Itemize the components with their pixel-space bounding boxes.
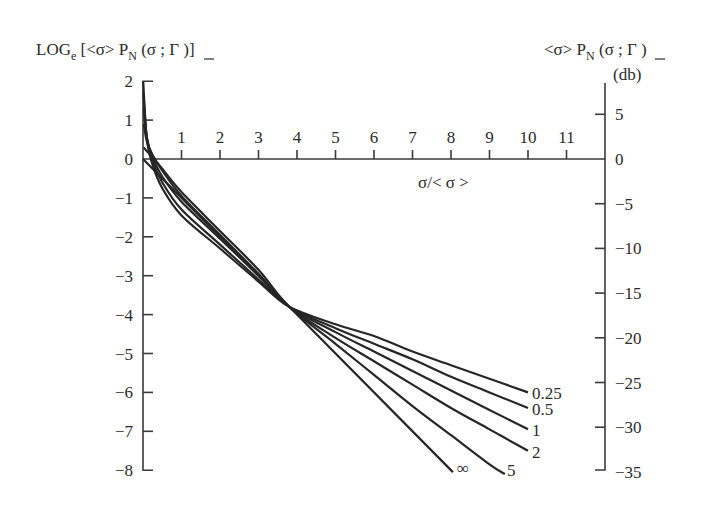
right-y-axis: [595, 83, 605, 470]
x-tick-label: 11: [558, 128, 574, 147]
axes: 210−1−2−3−4−5−6−7−8123456789101150−5−10−…: [115, 72, 642, 482]
y-tick-label: 2: [125, 72, 134, 91]
db-tick-label: −30: [615, 418, 642, 437]
db-tick-label: −20: [615, 329, 642, 348]
x-tick-label: 2: [216, 128, 225, 147]
db-tick-label: −15: [615, 284, 642, 303]
curve-5: [144, 147, 505, 474]
db-tick-label: −10: [615, 239, 642, 258]
y-tick-label: −4: [115, 306, 134, 325]
curve-∞: [143, 159, 453, 472]
x-tick-label: 9: [485, 128, 494, 147]
x-tick-label: 1: [177, 128, 186, 147]
db-tick-label: −5: [615, 195, 633, 214]
left-axis-title: LOGe [<σ> PN (σ ; Γ )]: [36, 40, 195, 63]
chart: LOGe [<σ> PN (σ ; Γ )] <σ> PN (σ ; Γ ) (…: [0, 0, 702, 512]
x-tick-label: 7: [408, 128, 417, 147]
y-tick-label: 1: [125, 111, 134, 130]
y-tick-label: −6: [115, 383, 133, 402]
x-tick-label: 8: [447, 128, 456, 147]
y-tick-label: −3: [115, 267, 133, 286]
y-tick-label: −1: [115, 189, 133, 208]
right-axis-title: <σ> PN (σ ; Γ ): [544, 40, 647, 63]
db-tick-label: −35: [615, 463, 642, 482]
x-tick-label: 10: [520, 128, 537, 147]
y-tick-label: 0: [125, 150, 134, 169]
y-tick-label: −7: [115, 422, 134, 441]
curve-label: 5: [507, 461, 516, 480]
x-tick-label: 5: [331, 128, 340, 147]
right-axis-unit: (db): [613, 65, 641, 84]
x-axis-title: σ/< σ >: [418, 173, 469, 192]
y-tick-label: −8: [115, 461, 133, 480]
y-tick-label: −5: [115, 345, 133, 364]
curve-label: 2: [532, 443, 541, 462]
curve-labels: 0.250.5125∞: [457, 384, 562, 480]
db-tick-label: −25: [615, 374, 642, 393]
curve-label: 0.5: [532, 400, 553, 419]
curve-2: [144, 124, 528, 451]
x-tick-label: 6: [370, 128, 379, 147]
db-tick-label: 5: [615, 105, 624, 124]
y-tick-label: −2: [115, 228, 133, 247]
curve-label: 1: [532, 421, 541, 440]
x-tick-label: 4: [293, 128, 302, 147]
x-tick-label: 3: [254, 128, 263, 147]
curve-label: ∞: [457, 459, 469, 478]
db-tick-label: 0: [615, 150, 624, 169]
